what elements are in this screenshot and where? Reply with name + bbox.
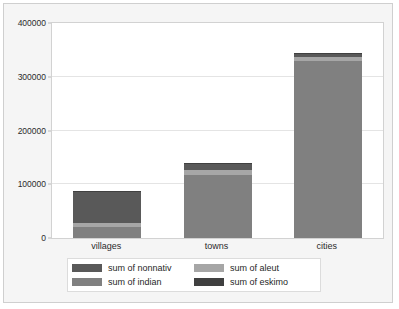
legend-item[interactable]: sum of eskimo <box>194 275 316 289</box>
bar-segment[interactable] <box>294 54 362 57</box>
bar-segment[interactable] <box>184 175 252 238</box>
y-axis-tick-label: 0 <box>41 233 46 243</box>
x-axis: villagestownscities <box>51 241 384 257</box>
legend-swatch <box>194 278 224 286</box>
bar-segment[interactable] <box>73 191 141 192</box>
y-axis-tick-label: 300000 <box>18 72 46 82</box>
bar-segment[interactable] <box>73 192 141 223</box>
bar-towns[interactable] <box>184 163 252 238</box>
legend-item[interactable]: sum of indian <box>72 275 194 289</box>
bar-segment[interactable] <box>184 164 252 170</box>
legend-label: sum of eskimo <box>230 278 288 287</box>
chart-legend: sum of nonnativsum of aleutsum of indian… <box>67 258 321 292</box>
bar-segment[interactable] <box>184 170 252 174</box>
x-axis-tick-label-towns: towns <box>205 241 229 251</box>
plot-area <box>51 22 384 239</box>
bar-segment[interactable] <box>294 61 362 238</box>
y-axis-tick-label: 100000 <box>18 179 46 189</box>
gridline <box>52 22 383 23</box>
bar-segment[interactable] <box>73 227 141 238</box>
legend-item[interactable]: sum of aleut <box>194 261 316 275</box>
y-axis-tick-label: 400000 <box>18 18 46 28</box>
bar-segment[interactable] <box>184 163 252 164</box>
y-axis-tick-label: 200000 <box>18 126 46 136</box>
x-axis-tick-label-cities: cities <box>317 241 338 251</box>
bar-segment[interactable] <box>294 53 362 54</box>
bar-segment[interactable] <box>73 223 141 227</box>
legend-label: sum of indian <box>108 278 162 287</box>
legend-item[interactable]: sum of nonnativ <box>72 261 194 275</box>
legend-label: sum of nonnativ <box>108 264 172 273</box>
bar-villages[interactable] <box>73 191 141 238</box>
bar-segment[interactable] <box>294 57 362 61</box>
legend-swatch <box>72 264 102 272</box>
chart-panel: 4000003000002000001000000 villagestownsc… <box>3 3 393 303</box>
y-axis: 4000003000002000001000000 <box>4 22 51 241</box>
bar-cities[interactable] <box>294 53 362 238</box>
x-axis-tick-label-villages: villages <box>91 241 121 251</box>
legend-swatch <box>194 264 224 272</box>
legend-swatch <box>72 278 102 286</box>
legend-label: sum of aleut <box>230 264 279 273</box>
